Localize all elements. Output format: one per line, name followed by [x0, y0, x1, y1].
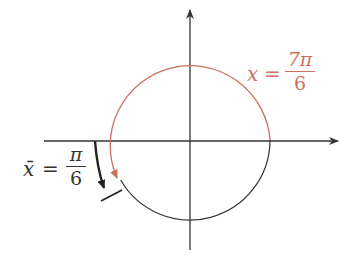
- label-xbar-numerator: π: [66, 145, 86, 164]
- label-x-numerator: 7π: [285, 50, 315, 69]
- label-x-eq: =: [264, 62, 281, 86]
- reference-arc-pi-6: [95, 141, 104, 188]
- label-xbar-eq: =: [42, 157, 59, 181]
- circle-lower-arc: [121, 140, 270, 220]
- label-x-var: x: [247, 62, 258, 86]
- label-xbar-denominator: 6: [66, 169, 86, 188]
- label-x-fraction: 7π 6: [285, 50, 315, 93]
- label-xbar-var: x̄: [23, 157, 34, 181]
- label-xbar-fraction: π 6: [66, 145, 86, 188]
- diagram-canvas: [0, 0, 346, 257]
- label-x-denominator: 6: [285, 74, 315, 93]
- terminal-side: [101, 190, 122, 201]
